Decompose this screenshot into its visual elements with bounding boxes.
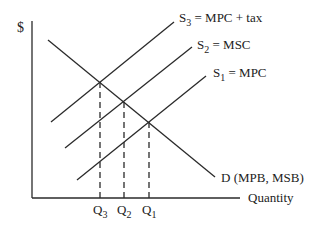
supply-curve-s1	[77, 76, 206, 180]
q1-label: Q1	[142, 203, 156, 220]
s2-label: S2 = MSC	[197, 38, 251, 55]
y-axis-label: $	[17, 21, 24, 35]
q3-label: Q3	[93, 203, 107, 220]
s3-label: S3 = MPC + tax	[179, 11, 262, 28]
x-axis-label: Quantity	[248, 191, 294, 204]
demand-label: D (MPB, MSB)	[221, 171, 304, 184]
supply-curve-s3	[51, 22, 174, 122]
supply-curve-s2	[65, 47, 192, 148]
demand-curve	[48, 40, 215, 177]
s1-label: S1 = MPC	[213, 66, 267, 83]
q2-label: Q2	[117, 203, 131, 220]
